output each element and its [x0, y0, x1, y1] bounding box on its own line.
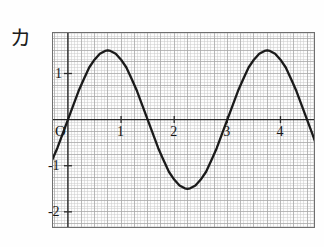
x-tick-label-3: 3 [223, 125, 230, 139]
x-tick-label-2: 2 [170, 125, 177, 139]
x-tick-label-1: 1 [117, 125, 124, 139]
y-tick-label-neg1: -1 [48, 159, 60, 173]
origin-label: O [55, 124, 66, 139]
figure-label-katakana-ka: カ [10, 28, 31, 49]
figure-canvas: カ O12341-1-2 [0, 0, 324, 247]
plot-area: O12341-1-2 [52, 32, 315, 228]
y-tick-label-1: 1 [55, 67, 62, 81]
y-tick-label-neg2: -2 [48, 205, 60, 219]
x-tick-label-4: 4 [276, 125, 283, 139]
